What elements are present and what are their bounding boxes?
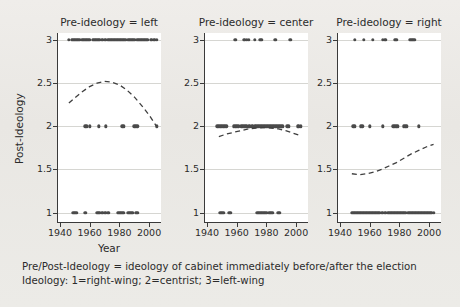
plot-area [204, 33, 308, 223]
data-point [97, 125, 100, 128]
data-point [371, 38, 374, 41]
data-point [413, 38, 416, 41]
data-point [122, 211, 125, 214]
y-tick-label: 1 [326, 208, 332, 218]
gridline [57, 83, 161, 84]
y-tick-label: 1.5 [184, 164, 199, 174]
x-axis-line [57, 222, 161, 223]
data-point [299, 125, 302, 128]
y-tick [333, 169, 337, 170]
y-axis-line [337, 33, 338, 223]
y-tick [333, 40, 337, 41]
data-point [274, 38, 277, 41]
data-point [362, 38, 365, 41]
x-axis-title: Year [57, 243, 161, 254]
data-point [84, 211, 87, 214]
data-point [405, 125, 408, 128]
data-point [75, 211, 78, 214]
chart-panel: Pre-ideology = center11.522.531940196019… [204, 33, 308, 223]
x-axis-line [337, 222, 441, 223]
data-point [381, 125, 384, 128]
data-point [281, 125, 284, 128]
data-point [88, 125, 91, 128]
data-point [122, 125, 125, 128]
y-tick [200, 169, 204, 170]
x-tick-label: 1940 [195, 228, 219, 238]
y-tick-label: 2.5 [184, 78, 199, 88]
y-tick-label: 1 [193, 208, 199, 218]
y-axis-line [57, 33, 58, 223]
plot-area [337, 33, 441, 223]
data-point [288, 38, 291, 41]
y-tick [53, 169, 57, 170]
y-tick-label: 3 [193, 35, 199, 45]
data-point [136, 125, 139, 128]
y-tick [53, 83, 57, 84]
gridline [204, 83, 308, 84]
y-tick-label: 2.5 [37, 78, 52, 88]
chart-panel: Pre-ideology = left11.522.53194019601980… [57, 33, 161, 223]
panel-title: Pre-ideology = center [199, 17, 313, 28]
y-tick [333, 213, 337, 214]
y-axis-title: Post-Ideology [14, 93, 25, 164]
y-tick-label: 3 [326, 35, 332, 45]
y-axis-line [204, 33, 205, 223]
data-point [253, 38, 256, 41]
y-tick [53, 213, 57, 214]
data-point [417, 125, 420, 128]
x-tick-label: 1940 [328, 228, 352, 238]
y-tick-label: 1.5 [317, 164, 332, 174]
data-point [384, 38, 387, 41]
panel-title: Pre-ideology = right [336, 17, 441, 28]
y-tick-label: 2 [46, 121, 52, 131]
gridline [204, 40, 308, 41]
gridline [57, 169, 161, 170]
fit-curve [337, 33, 441, 223]
data-point [225, 125, 228, 128]
data-point [287, 125, 290, 128]
x-tick-label: 1980 [254, 228, 278, 238]
caption-line-1: Pre/Post-Ideology = ideology of cabinet … [22, 260, 417, 274]
data-point [395, 38, 398, 41]
y-tick-label: 2.5 [317, 78, 332, 88]
data-point [107, 211, 110, 214]
data-point [155, 125, 158, 128]
caption-line-2: Ideology: 1=right-wing; 2=centrist; 3=le… [22, 274, 264, 288]
y-tick [200, 213, 204, 214]
data-point [271, 211, 274, 214]
gridline [337, 169, 441, 170]
data-point [155, 38, 158, 41]
x-tick-label: 1980 [107, 228, 131, 238]
x-tick-label: 1960 [225, 228, 249, 238]
y-tick [200, 40, 204, 41]
data-point [368, 125, 371, 128]
x-tick-label: 2000 [284, 228, 308, 238]
data-point [361, 125, 364, 128]
data-point [229, 211, 232, 214]
data-point [432, 211, 435, 214]
y-tick-label: 1 [46, 208, 52, 218]
chart-page: Post-Ideology Pre-ideology = left11.522.… [0, 0, 460, 307]
data-point [278, 211, 281, 214]
x-tick-label: 1980 [387, 228, 411, 238]
y-tick-label: 1.5 [37, 164, 52, 174]
fit-curve [204, 33, 308, 223]
panel-title: Pre-ideology = left [60, 17, 158, 28]
gridline [204, 169, 308, 170]
y-tick [200, 126, 204, 127]
y-tick [200, 83, 204, 84]
chart-panel: Pre-ideology = right11.522.5319401960198… [337, 33, 441, 223]
data-point [233, 38, 236, 41]
x-tick-label: 1940 [48, 228, 72, 238]
y-tick-label: 3 [46, 35, 52, 45]
fit-curve [57, 33, 161, 223]
data-point [222, 211, 225, 214]
data-point [247, 38, 250, 41]
x-tick-label: 1960 [358, 228, 382, 238]
x-tick-label: 1960 [78, 228, 102, 238]
y-tick-label: 2 [193, 121, 199, 131]
data-point [353, 38, 356, 41]
data-point [104, 125, 107, 128]
data-point [353, 125, 356, 128]
data-point [260, 38, 263, 41]
